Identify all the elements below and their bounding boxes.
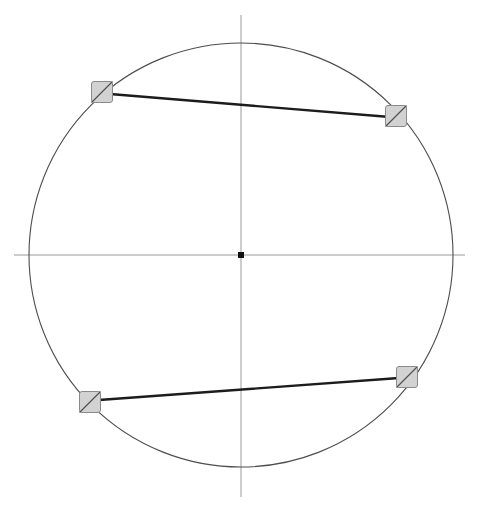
circle-chord-diagram <box>0 0 480 512</box>
center-point-marker <box>238 252 244 258</box>
diagram-canvas <box>0 0 480 512</box>
